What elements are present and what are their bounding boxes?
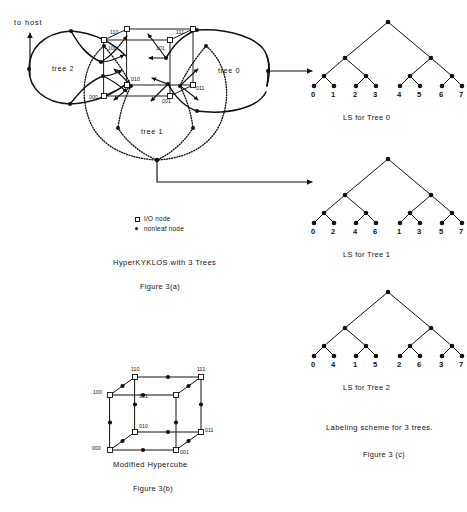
ls-tree-1-leaf-3: 6 bbox=[373, 228, 377, 236]
cube-a-vertex-000: 000 bbox=[89, 95, 98, 100]
ls-tree-0-leaf-2: 2 bbox=[353, 91, 357, 99]
cube-b-vertex-010: 010 bbox=[139, 424, 148, 429]
cube-a-vertex-110: 110 bbox=[110, 30, 119, 35]
panel-a-figure-number: Figure 3(a) bbox=[140, 283, 180, 290]
ls-tree-0-leaf-5: 5 bbox=[417, 91, 421, 99]
dot-icon bbox=[135, 227, 138, 230]
cube-b-vertex-000: 000 bbox=[92, 446, 101, 451]
panel-b-title: Modified Hypercube bbox=[113, 461, 188, 469]
tree-1-label: tree 1 bbox=[141, 128, 163, 135]
cube-a-vertex-001: 001 bbox=[162, 99, 171, 104]
ls-tree-2-leaf-7: 7 bbox=[459, 361, 463, 369]
panel-c-title: Labeling scheme for 3 trees. bbox=[326, 424, 433, 432]
cube-b-vertex-110: 110 bbox=[131, 367, 140, 372]
ls-tree-1-leaf-7: 7 bbox=[459, 228, 463, 236]
cube-b-vertex-001: 001 bbox=[180, 450, 189, 455]
ls-tree-1-leaf-0: 0 bbox=[311, 228, 315, 236]
cube-b-vertex-111: 111 bbox=[197, 367, 205, 372]
ls-tree-0-leaf-0: 0 bbox=[311, 91, 315, 99]
legend-nonleaf-node-label: nonleaf node bbox=[144, 226, 184, 232]
panel-b-figure-number: Figure 3(b) bbox=[133, 485, 173, 492]
ls-tree-1-leaf-1: 2 bbox=[331, 228, 335, 236]
tree-0-label: tree 0 bbox=[218, 67, 240, 74]
cube-a-vertex-101: 101 bbox=[156, 46, 165, 51]
ls-tree-2-leaf-3: 5 bbox=[373, 361, 377, 369]
ls-tree-0-caption: LS for Tree 0 bbox=[343, 114, 390, 121]
ls-tree-2-leaf-0: 0 bbox=[311, 361, 315, 369]
legend-io-node-label: I/O node bbox=[144, 216, 171, 222]
square-icon bbox=[135, 217, 140, 222]
panel-a-title: HyperKYKLOS with 3 Trees bbox=[113, 259, 216, 267]
cube-a-vertex-011: 011 bbox=[196, 86, 205, 91]
cube-b-vertex-011: 011 bbox=[205, 428, 214, 433]
ls-tree-0-leaf-3: 3 bbox=[373, 91, 377, 99]
ls-tree-2-leaf-4: 2 bbox=[397, 361, 401, 369]
ls-tree-1-caption: LS for Tree 1 bbox=[343, 251, 390, 258]
ls-tree-1-leaf-4: 1 bbox=[397, 228, 401, 236]
cube-a-vertex-100: 100 bbox=[108, 46, 117, 51]
tree-2-label: tree 2 bbox=[52, 65, 74, 72]
cube-b-vertex-101: 101 bbox=[139, 394, 148, 399]
ls-tree-0-leaf-1: 1 bbox=[331, 91, 335, 99]
to-host-label: to host bbox=[14, 19, 43, 26]
cube-a-vertex-010: 010 bbox=[131, 77, 140, 82]
figure-page: to host tree 0 tree 1 tree 2 110 111 100… bbox=[0, 0, 467, 512]
ls-tree-1-leaf-5: 3 bbox=[417, 228, 421, 236]
ls-tree-0-leaf-4: 4 bbox=[397, 91, 401, 99]
ls-tree-0-leaf-6: 6 bbox=[439, 91, 443, 99]
panel-c-figure-number: Figure 3 (c) bbox=[363, 451, 405, 458]
cube-b-vertex-100: 100 bbox=[93, 390, 102, 395]
ls-tree-1-leaf-6: 5 bbox=[439, 228, 443, 236]
ls-tree-2-leaf-5: 6 bbox=[417, 361, 421, 369]
ls-tree-2-leaf-6: 3 bbox=[439, 361, 443, 369]
figure-text-layer: to host tree 0 tree 1 tree 2 110 111 100… bbox=[0, 0, 467, 512]
ls-tree-1-leaf-2: 4 bbox=[353, 228, 357, 236]
ls-tree-2-leaf-2: 1 bbox=[353, 361, 357, 369]
ls-tree-2-caption: LS for Tree 2 bbox=[343, 384, 390, 391]
ls-tree-2-leaf-1: 4 bbox=[331, 361, 335, 369]
cube-a-vertex-111: 111 bbox=[176, 30, 184, 35]
ls-tree-0-leaf-7: 7 bbox=[459, 91, 463, 99]
